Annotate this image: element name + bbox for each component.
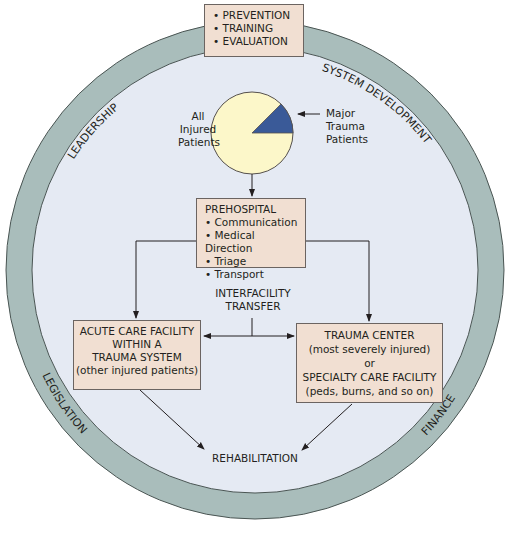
- major-trauma-label: Major Trauma Patients: [326, 107, 386, 146]
- rehabilitation-label: REHABILITATION: [200, 452, 310, 465]
- all-injured-label-line: Injured: [178, 123, 218, 136]
- major-trauma-label-line: Trauma: [326, 120, 386, 133]
- acute-care-line: WITHIN A: [74, 338, 200, 351]
- prehospital-item: Medical Direction: [205, 229, 305, 255]
- training-item: TRAINING: [213, 22, 303, 35]
- interfacility-line: INTERFACILITY: [205, 287, 301, 300]
- prehospital-box: PREHOSPITAL Communication Medical Direct…: [196, 198, 306, 268]
- acute-care-line: TRAUMA SYSTEM: [74, 351, 200, 364]
- acute-care-box: ACUTE CARE FACILITY WITHIN A TRAUMA SYST…: [73, 320, 201, 390]
- major-trauma-label-line: Patients: [326, 133, 386, 146]
- prevention-item: PREVENTION: [213, 9, 303, 22]
- trauma-center-line: or: [297, 356, 442, 370]
- acute-care-line: (other injured patients): [74, 364, 200, 377]
- acute-care-line: ACUTE CARE FACILITY: [74, 325, 200, 338]
- evaluation-item: EVALUATION: [213, 35, 303, 48]
- major-trauma-label-line: Major: [326, 107, 386, 120]
- interfacility-transfer-label: INTERFACILITY TRANSFER: [205, 287, 301, 313]
- trauma-center-box: TRAUMA CENTER (most severely injured) or…: [296, 323, 443, 403]
- trauma-center-line: (most severely injured): [297, 342, 442, 356]
- trauma-center-line: (peds, burns, and so on): [297, 384, 442, 398]
- all-injured-label-line: Patients: [178, 136, 218, 149]
- prehospital-title: PREHOSPITAL: [205, 203, 305, 216]
- all-injured-label: All Injured Patients: [178, 110, 218, 149]
- all-injured-label-line: All: [178, 110, 218, 123]
- trauma-center-line: TRAUMA CENTER: [297, 328, 442, 342]
- prehospital-item: Triage: [205, 255, 305, 268]
- prehospital-item: Transport: [205, 268, 305, 281]
- trauma-center-line: SPECIALTY CARE FACILITY: [297, 370, 442, 384]
- prevention-box: PREVENTION TRAINING EVALUATION: [204, 4, 304, 57]
- prehospital-item: Communication: [205, 216, 305, 229]
- transfer-line: TRANSFER: [205, 300, 301, 313]
